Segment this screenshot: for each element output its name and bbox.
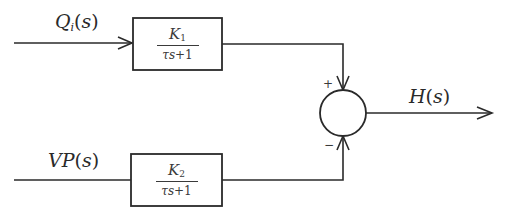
input-arg-qi: (s) (74, 10, 99, 32)
transfer-function-1: K1 τs+1 (133, 18, 222, 70)
input-arg-vp: (s) (75, 149, 100, 171)
sum-sign-plus: + (323, 78, 333, 90)
input-label-qi: Qi(s) (55, 12, 99, 33)
denominator-2: τs+1 (161, 182, 192, 197)
input-symbol-qi: Q (55, 10, 71, 32)
input-symbol-vp: VP (48, 149, 75, 171)
numerator-1: K1 (169, 27, 186, 45)
output-symbol-h: H (409, 85, 426, 107)
numerator-2: K2 (168, 163, 185, 181)
input-label-vp: VP(s) (48, 151, 99, 170)
output-arg-h: (s) (426, 85, 451, 107)
summing-junction (320, 90, 366, 136)
sum-sign-minus: − (324, 139, 334, 151)
transfer-function-2: K2 τs+1 (131, 154, 222, 206)
output-label-h: H(s) (409, 87, 450, 106)
denominator-1: τs+1 (162, 46, 193, 61)
